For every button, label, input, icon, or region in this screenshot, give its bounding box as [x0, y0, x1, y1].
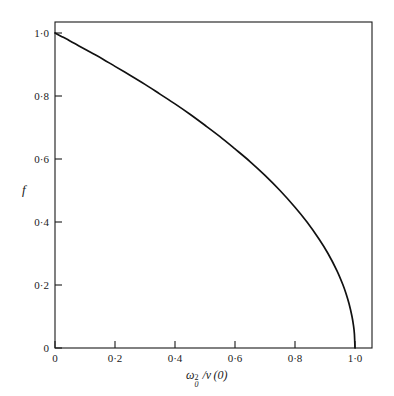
x-axis-title-superscript: 2 [194, 374, 198, 382]
y-tick-label-0-4: 0·4 [34, 216, 49, 228]
x-axis-title-denominator: v (0) [206, 368, 228, 382]
y-axis-tick-labels: 0 0·2 0·4 0·6 0·8 1·0 [34, 27, 49, 354]
x-tick-label-0-2: 0·2 [108, 352, 123, 364]
y-axis-ticks [55, 33, 62, 348]
x-tick-label-0-4: 0·4 [168, 352, 183, 364]
data-curve-f [55, 33, 355, 348]
plot-area: 0 0·2 0·4 0·6 0·8 1·0 0 0·2 0·4 0·6 0·8 … [0, 0, 394, 396]
x-tick-label-1-0: 1·0 [348, 352, 363, 364]
y-axis-title: f [22, 183, 26, 196]
x-axis-title-omega: ω [186, 368, 194, 382]
y-tick-label-0-2: 0·2 [34, 279, 49, 291]
x-axis-ticks [55, 341, 355, 348]
y-tick-label-0-6: 0·6 [34, 153, 49, 165]
x-axis-title: ω02/v (0) [186, 369, 228, 381]
y-tick-label-0: 0 [44, 342, 50, 354]
x-axis-tick-labels: 0 0·2 0·4 0·6 0·8 1·0 [52, 352, 363, 364]
x-tick-label-0-8: 0·8 [288, 352, 303, 364]
x-tick-label-0: 0 [52, 352, 58, 364]
y-tick-label-1-0: 1·0 [34, 27, 49, 39]
plot-frame [55, 22, 372, 348]
x-axis-title-subscript: 0 [194, 381, 198, 389]
figure-container: 0 0·2 0·4 0·6 0·8 1·0 0 0·2 0·4 0·6 0·8 … [0, 0, 394, 396]
x-tick-label-0-6: 0·6 [228, 352, 243, 364]
y-tick-label-0-8: 0·8 [34, 90, 49, 102]
